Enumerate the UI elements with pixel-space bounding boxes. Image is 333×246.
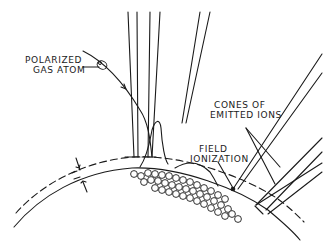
gap-dimension-arrows (72, 158, 87, 192)
diagram-drawing (0, 0, 333, 246)
vertical-ion-cone (125, 12, 160, 157)
label-line: FIELD (190, 144, 249, 154)
label-line: GAS ATOM (25, 65, 85, 75)
field-ionization-diagram: POLARIZED GAS ATOM CONES OF EMITTED IONS… (0, 0, 333, 246)
field-ionization-label: FIELD IONIZATION (190, 144, 249, 164)
label-line: EMITTED IONS (210, 110, 282, 120)
label-line: IONIZATION (190, 154, 249, 164)
label-line: POLARIZED (25, 55, 85, 65)
surface-atom-spheres (131, 170, 242, 223)
label-line: CONES OF (210, 100, 282, 110)
middle-ion-cone (182, 12, 210, 123)
angled-ion-cones (233, 54, 322, 214)
cones-of-emitted-ions-label: CONES OF EMITTED IONS (210, 100, 282, 120)
polarized-gas-atom-label: POLARIZED GAS ATOM (25, 55, 85, 75)
ionization-point (231, 187, 235, 191)
polarized-gas-atom (96, 59, 108, 70)
